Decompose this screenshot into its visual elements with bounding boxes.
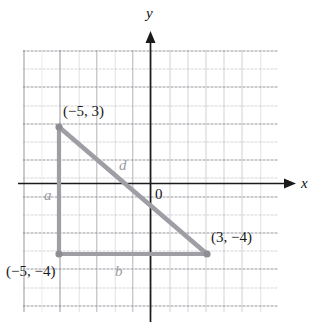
vertex-dot-3-minus4 (203, 250, 210, 257)
x-axis-label: x (301, 176, 308, 191)
point-label-3-minus4: (3, −4) (211, 230, 252, 245)
triangle-sides (59, 127, 207, 254)
side-label-b: b (115, 264, 123, 279)
side-label-d: d (119, 158, 127, 173)
coordinate-plane-figure: y x 0 (−5, 3) (−5, −4) (3, −4) a b d (0, 0, 311, 335)
vertex-dot-minus5-minus4 (55, 250, 62, 257)
axes-and-triangle-layer (0, 0, 311, 335)
side-label-a: a (44, 188, 52, 203)
origin-label: 0 (155, 187, 163, 202)
vertex-dot-minus5-3 (55, 123, 62, 130)
side-d-hypotenuse (59, 127, 207, 254)
point-label-minus5-minus4: (−5, −4) (6, 264, 55, 279)
y-axis (146, 31, 156, 322)
point-label-minus5-3: (−5, 3) (63, 104, 104, 119)
y-axis-label: y (146, 6, 153, 21)
